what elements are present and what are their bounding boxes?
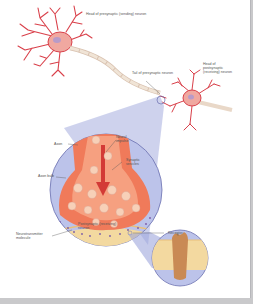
label-axon-bulb: Axon bulb — [38, 174, 54, 178]
label-neural-impulse: Neural impulse — [116, 135, 136, 143]
presynaptic-cell-body — [48, 32, 72, 52]
label-postsynaptic-head: Head of postsynaptic (receiving) neuron — [203, 62, 233, 75]
diagram-canvas: Head of presynaptic (sending) neuron Tai… — [0, 0, 251, 298]
label-axon: Axon — [54, 142, 62, 146]
label-postsynaptic-neuron: Postsynaptic (receiving) neuron — [78, 222, 118, 230]
label-synaptic-vesicles: Synaptic vesicles — [126, 158, 148, 166]
nucleus — [53, 37, 61, 43]
receptor — [172, 232, 188, 280]
label-neurotransmitter: Neurotransmitter molecule — [16, 232, 54, 240]
neuron-synapse-illustration — [0, 0, 250, 298]
label-presynaptic-tail: Tail of presynaptic neuron — [132, 71, 173, 75]
label-receptor: Receptor — [168, 231, 183, 235]
postsynaptic-axon — [198, 102, 232, 110]
label-presynaptic-head: Head of presynaptic (sending) neuron — [86, 12, 146, 16]
